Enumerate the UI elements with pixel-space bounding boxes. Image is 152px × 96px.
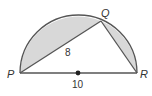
semicircle-diagram: P Q R 8 10: [0, 0, 152, 96]
center-point: [76, 71, 81, 76]
label-r: R: [140, 68, 148, 80]
label-p: P: [7, 68, 15, 80]
label-q: Q: [101, 7, 110, 19]
label-pr-length: 10: [72, 79, 84, 90]
label-pq-length: 8: [65, 47, 71, 58]
